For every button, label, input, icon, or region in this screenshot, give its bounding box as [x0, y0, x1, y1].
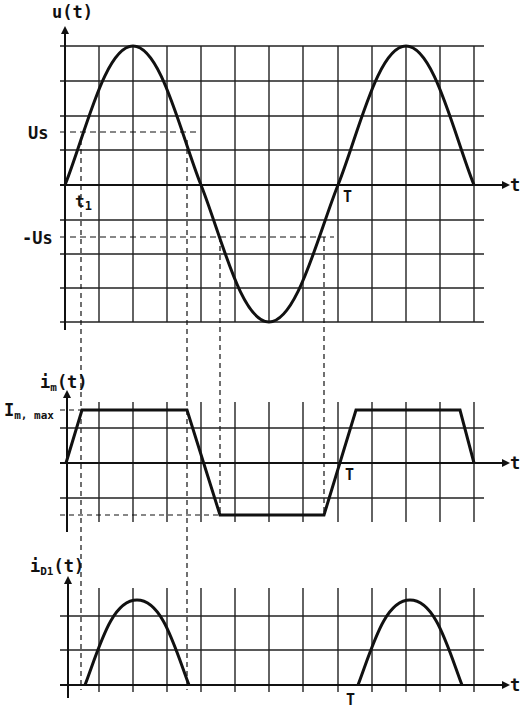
projection-lines	[81, 140, 324, 690]
current-y-label: im(t)	[40, 372, 88, 394]
neg-us-label: -Us	[22, 228, 53, 248]
diode-current-pulse-1	[85, 600, 189, 685]
diode-period-label: T	[346, 691, 355, 709]
diode-y-label: iD1(t)	[30, 556, 84, 578]
us-label: Us	[28, 123, 48, 143]
imax-label: Im, max	[4, 400, 54, 422]
waveform-diagram: u(t) Us -Us t t1 T	[0, 0, 522, 726]
voltage-period-label: T	[343, 188, 352, 206]
diode-t-axis-label: t	[510, 675, 520, 695]
diode-current-plot: iD1(t) t T	[30, 556, 520, 709]
current-t-axis-label: t	[510, 453, 520, 473]
voltage-plot: u(t) Us -Us t t1 T	[22, 2, 520, 330]
voltage-t-axis-label: t	[510, 175, 520, 195]
current-period-label: T	[345, 466, 354, 484]
t1-label: t1	[75, 192, 92, 213]
diode-current-pulse-2	[358, 600, 462, 685]
voltage-y-label: u(t)	[52, 2, 93, 22]
